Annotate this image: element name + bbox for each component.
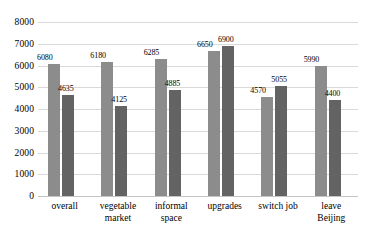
bar-value-label: 6285 bbox=[144, 48, 160, 57]
bar-group: 60804635 bbox=[38, 22, 91, 196]
bar-group: 61804125 bbox=[91, 22, 144, 196]
bar-value-label: 4635 bbox=[58, 84, 74, 93]
bar-group: 59904400 bbox=[305, 22, 358, 196]
y-axis-tick-label: 7000 bbox=[0, 39, 34, 49]
bar-value-label: 4885 bbox=[165, 79, 181, 88]
y-axis-tick-label: 1000 bbox=[0, 169, 34, 179]
bar[interactable] bbox=[169, 90, 181, 196]
y-axis-tick-label: 6000 bbox=[0, 61, 34, 71]
plot-area: 6080463561804125628548856650690045705055… bbox=[38, 22, 358, 196]
bar-value-label: 4570 bbox=[250, 86, 266, 95]
bar[interactable] bbox=[275, 86, 287, 196]
y-axis-tick-label: 5000 bbox=[0, 82, 34, 92]
bar[interactable] bbox=[62, 95, 74, 196]
bar-group: 45705055 bbox=[251, 22, 304, 196]
y-axis-tick-label: 8000 bbox=[0, 17, 34, 27]
bar[interactable] bbox=[101, 62, 113, 196]
bar-group: 62854885 bbox=[145, 22, 198, 196]
bar[interactable] bbox=[315, 66, 327, 196]
x-axis-category-label: leave Beijing bbox=[299, 201, 364, 224]
bar[interactable] bbox=[261, 97, 273, 196]
bar[interactable] bbox=[222, 46, 234, 196]
y-axis-tick-label: 0 bbox=[0, 191, 34, 201]
bar-chart: 010002000300040005000600070008000 608046… bbox=[0, 0, 370, 242]
bar-value-label: 6650 bbox=[197, 40, 213, 49]
bar-value-label: 6900 bbox=[218, 35, 234, 44]
bar[interactable] bbox=[208, 51, 220, 196]
bar-group: 66506900 bbox=[198, 22, 251, 196]
bar-value-label: 5055 bbox=[271, 75, 287, 84]
y-axis-tick-label: 2000 bbox=[0, 148, 34, 158]
bar-value-label: 5990 bbox=[304, 55, 320, 64]
bar-value-label: 6180 bbox=[90, 51, 106, 60]
bar-value-label: 6080 bbox=[37, 53, 53, 62]
y-axis-tick-label: 4000 bbox=[0, 104, 34, 114]
bar-value-label: 4125 bbox=[111, 95, 127, 104]
bar-value-label: 4400 bbox=[325, 89, 341, 98]
bar[interactable] bbox=[115, 106, 127, 196]
axis-baseline bbox=[38, 196, 358, 197]
bar[interactable] bbox=[329, 100, 341, 196]
y-axis-tick-label: 3000 bbox=[0, 126, 34, 136]
